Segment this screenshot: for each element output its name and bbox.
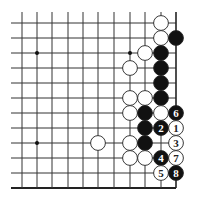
black-stone-icon: [154, 91, 169, 106]
black-stone[interactable]: [138, 136, 153, 151]
white-stone[interactable]: [123, 106, 138, 121]
white-stone-icon: [123, 151, 138, 166]
star-point-icon: [128, 51, 132, 55]
move-number: 4: [158, 152, 164, 164]
move-number: 3: [173, 137, 179, 149]
white-stone-icon: [91, 136, 106, 151]
black-stone-icon: [169, 31, 184, 46]
white-stone-icon: [123, 136, 138, 151]
white-stone[interactable]: [154, 106, 169, 121]
white-stone-icon: [123, 61, 138, 76]
white-stone[interactable]: [154, 31, 169, 46]
white-stone-icon: [123, 106, 138, 121]
white-stone[interactable]: [138, 151, 153, 166]
white-stone[interactable]: [123, 151, 138, 166]
go-board[interactable]: 62134758: [0, 0, 198, 204]
white-stone[interactable]: [154, 16, 169, 31]
white-stone-icon: [123, 91, 138, 106]
white-stone[interactable]: [138, 46, 153, 61]
move-number: 8: [173, 167, 179, 179]
black-stone-move-4[interactable]: 4: [154, 151, 169, 166]
black-stone-icon: [154, 61, 169, 76]
white-stone[interactable]: [123, 136, 138, 151]
white-stone-icon: [138, 91, 153, 106]
white-stone-move-5[interactable]: 5: [154, 166, 169, 181]
move-number: 1: [173, 122, 179, 134]
black-stone[interactable]: [154, 76, 169, 91]
black-stone[interactable]: [169, 31, 184, 46]
black-stone-move-8[interactable]: 8: [169, 166, 184, 181]
white-stone-move-7[interactable]: 7: [169, 151, 184, 166]
move-number: 2: [158, 122, 164, 134]
black-stone-icon: [138, 121, 153, 136]
black-stone-move-6[interactable]: 6: [169, 106, 184, 121]
white-stone-move-1[interactable]: 1: [169, 121, 184, 136]
white-stone-move-3[interactable]: 3: [169, 136, 184, 151]
white-stone[interactable]: [91, 136, 106, 151]
white-stone[interactable]: [123, 61, 138, 76]
black-stone-icon: [154, 76, 169, 91]
black-stone[interactable]: [154, 61, 169, 76]
black-stone[interactable]: [138, 121, 153, 136]
black-stone-icon: [138, 106, 153, 121]
move-number: 7: [173, 152, 179, 164]
move-number: 6: [173, 107, 179, 119]
black-stone[interactable]: [154, 91, 169, 106]
white-stone-icon: [154, 16, 169, 31]
white-stone-icon: [154, 106, 169, 121]
black-stone-icon: [138, 136, 153, 151]
black-stone[interactable]: [154, 46, 169, 61]
white-stone-icon: [138, 46, 153, 61]
black-stone-icon: [154, 46, 169, 61]
star-point-icon: [35, 51, 39, 55]
white-stone[interactable]: [138, 91, 153, 106]
move-number: 5: [158, 167, 164, 179]
black-stone[interactable]: [138, 106, 153, 121]
white-stone[interactable]: [123, 91, 138, 106]
black-stone-move-2[interactable]: 2: [154, 121, 169, 136]
white-stone-icon: [154, 31, 169, 46]
star-point-icon: [35, 141, 39, 145]
white-stone-icon: [138, 151, 153, 166]
